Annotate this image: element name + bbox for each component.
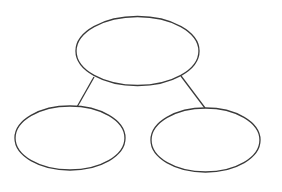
root-node — [76, 17, 199, 86]
right-child-node — [151, 108, 260, 172]
edge-root-left — [77, 77, 94, 107]
tree-diagram — [0, 0, 282, 192]
left-child-node — [15, 106, 125, 170]
edge-root-right — [181, 76, 205, 108]
